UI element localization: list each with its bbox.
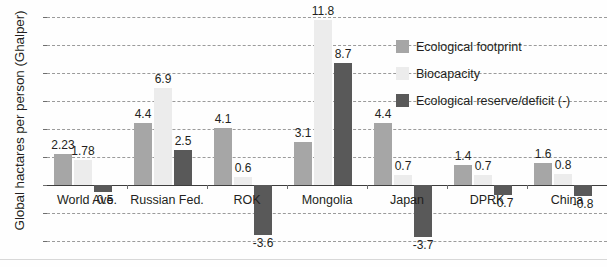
legend-item: Ecological footprint xyxy=(396,36,596,57)
bar xyxy=(134,123,152,185)
bar xyxy=(174,150,192,185)
y-axis-tick-mark xyxy=(43,241,47,242)
y-axis-tick-mark xyxy=(43,45,47,46)
bar-value-label: -3.6 xyxy=(253,236,274,250)
gridline xyxy=(47,213,607,214)
legend-swatch-icon xyxy=(396,94,409,107)
x-axis-tick-mark xyxy=(127,185,128,189)
bar xyxy=(94,185,112,192)
bar xyxy=(394,175,412,185)
x-axis-category-label: Russian Fed. xyxy=(130,193,204,207)
bar-value-label: 1.4 xyxy=(455,149,472,163)
bar-value-label: 0.7 xyxy=(395,159,412,173)
y-axis-title: Global hactares per person (Ghalper) xyxy=(12,0,27,246)
bar-value-label: 0.8 xyxy=(555,158,572,172)
x-axis-category-label: Mongolia xyxy=(302,193,353,207)
y-axis-tick-mark xyxy=(43,101,47,102)
bar xyxy=(294,142,312,185)
bar-chart: Global hactares per person (Ghalper) 121… xyxy=(0,0,607,267)
bar xyxy=(554,174,572,185)
x-axis-category-label: World Ave. xyxy=(57,193,117,207)
x-axis-tick-mark xyxy=(207,185,208,189)
y-axis-tick-mark xyxy=(43,17,47,18)
bar xyxy=(154,88,172,185)
zero-axis-line xyxy=(47,185,607,186)
y-axis-tick-mark xyxy=(43,185,47,186)
x-axis-category-label: Japan xyxy=(390,193,424,207)
x-axis-tick-mark xyxy=(367,185,368,189)
bar-value-label: 1.78 xyxy=(71,144,94,158)
bar xyxy=(334,63,352,185)
bar xyxy=(234,177,252,185)
x-axis-category-label: DPRK xyxy=(470,193,505,207)
x-axis-category-label: ROK xyxy=(233,193,260,207)
bar-value-label: -3.7 xyxy=(413,238,434,252)
y-axis-tick-mark xyxy=(43,213,47,214)
bar xyxy=(374,123,392,185)
bar xyxy=(54,154,72,185)
bar xyxy=(314,20,332,185)
y-axis-tick-mark xyxy=(43,157,47,158)
legend-label: Ecological footprint xyxy=(416,40,522,54)
bar xyxy=(454,165,472,185)
x-axis-tick-mark xyxy=(527,185,528,189)
legend-item: Ecological reserve/deficit (-) xyxy=(396,90,596,111)
bar-value-label: 8.7 xyxy=(335,47,352,61)
x-axis-tick-mark xyxy=(447,185,448,189)
legend-label: Biocapacity xyxy=(416,67,480,81)
bar-value-label: 6.9 xyxy=(155,72,172,86)
chart-legend: Ecological footprintBiocapacityEcologica… xyxy=(396,36,596,117)
bar xyxy=(534,163,552,185)
gridline xyxy=(47,241,607,242)
bar-value-label: 0.7 xyxy=(475,159,492,173)
legend-item: Biocapacity xyxy=(396,63,596,84)
bar xyxy=(474,175,492,185)
x-axis-category-label: China xyxy=(551,193,584,207)
legend-label: Ecological reserve/deficit (-) xyxy=(416,94,570,108)
bar-value-label: 2.5 xyxy=(175,134,192,148)
legend-swatch-icon xyxy=(396,40,409,53)
bar-value-label: 11.8 xyxy=(312,4,334,18)
y-axis-tick-mark xyxy=(43,129,47,130)
bar-value-label: 4.1 xyxy=(215,112,232,126)
bar-value-label: 4.4 xyxy=(135,107,152,121)
x-axis-tick-mark xyxy=(287,185,288,189)
bar-value-label: 4.4 xyxy=(375,107,392,121)
bar xyxy=(214,128,232,185)
bar-value-label: 3.1 xyxy=(295,126,312,140)
bottom-divider xyxy=(0,259,607,260)
bar-value-label: 1.6 xyxy=(535,147,552,161)
y-axis-tick-mark xyxy=(43,73,47,74)
bar-value-label: 0.6 xyxy=(235,161,252,175)
bar xyxy=(74,160,92,185)
legend-swatch-icon xyxy=(396,67,409,80)
